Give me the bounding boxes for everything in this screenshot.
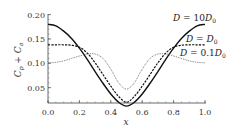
line-chart: 0.00.20.40.60.81.0 0.050.100.150.20 x Cp… xyxy=(0,0,231,140)
series-line-dotted xyxy=(48,54,205,89)
x-tick-label: 0.8 xyxy=(167,108,180,117)
series-line-solid xyxy=(48,24,205,106)
x-tick-label: 0.6 xyxy=(136,108,149,117)
x-tick-label: 1.0 xyxy=(199,108,212,117)
y-ticks: 0.050.100.150.20 xyxy=(27,11,51,93)
legend-label-01d0: D = 0.1D0 xyxy=(179,48,226,59)
x-tick-label: 0.0 xyxy=(42,108,55,117)
y-tick-label: 0.05 xyxy=(27,84,45,93)
x-tick-label: 0.2 xyxy=(73,108,86,117)
series-group xyxy=(48,24,205,106)
y-axis-label: Cp + Ca xyxy=(13,42,25,77)
x-tick-label: 0.4 xyxy=(104,108,117,117)
y-tick-label: 0.20 xyxy=(27,11,45,20)
legend-label-d0: D = D0 xyxy=(185,34,218,45)
legend-label-10d0: D = 10D0 xyxy=(172,13,216,24)
y-tick-label: 0.10 xyxy=(27,59,45,68)
y-tick-label: 0.15 xyxy=(27,35,45,44)
x-axis-label: x xyxy=(123,117,128,127)
